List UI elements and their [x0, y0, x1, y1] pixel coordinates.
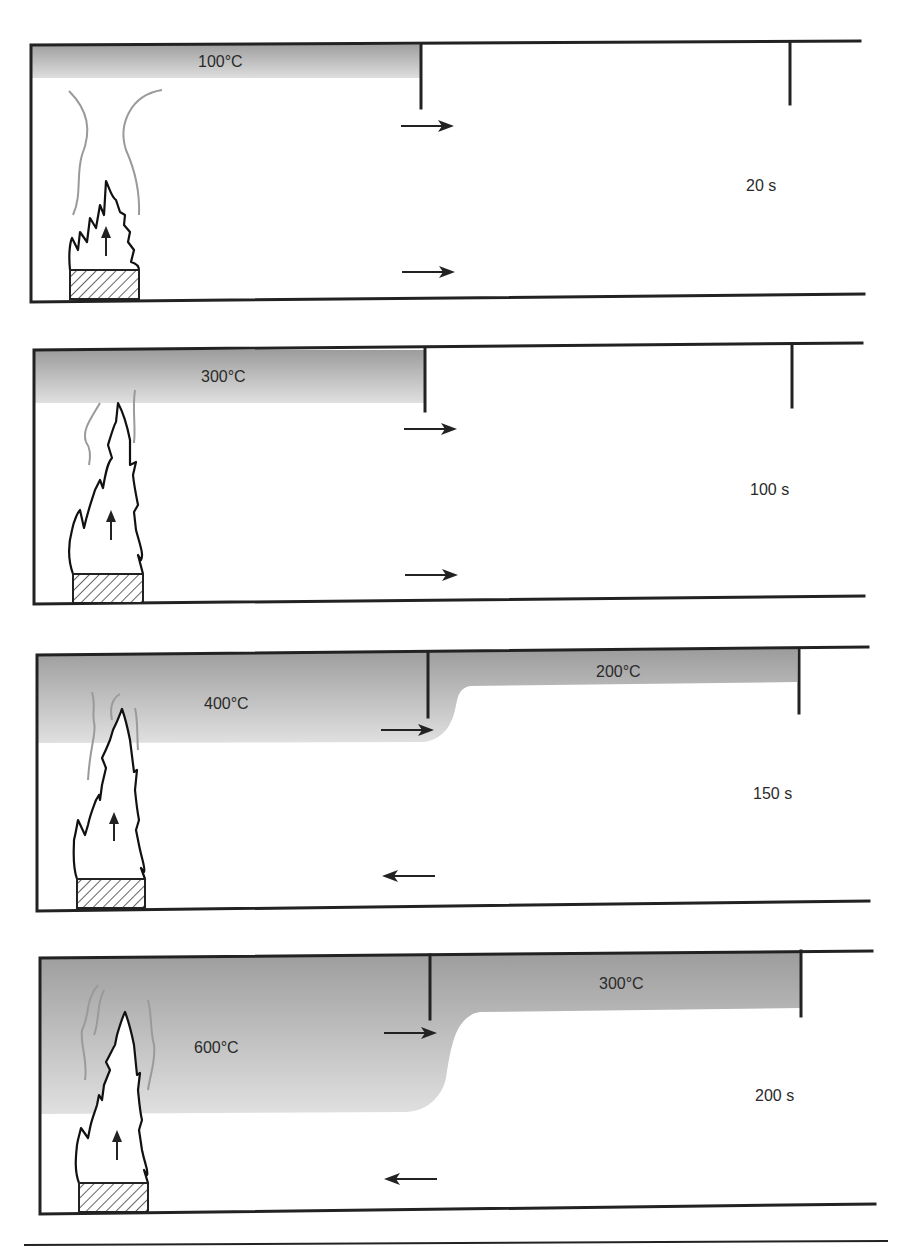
panel-200s: 600°C 300°C 200 s	[40, 951, 875, 1214]
smoke-layer-room	[37, 649, 797, 743]
corridor-layer-temp: 200°C	[596, 663, 641, 680]
panel-150s: 400°C 200°C 150 s	[37, 647, 869, 911]
room-wall-outline	[31, 41, 864, 302]
plume-line-left	[69, 91, 87, 215]
hatched-fuel-bed-icon	[79, 1183, 148, 1212]
hatched-fuel-bed-icon	[73, 574, 143, 603]
panel-100s: 300°C 100 s	[34, 343, 864, 604]
flame-icon	[69, 403, 143, 574]
plume-line-left	[85, 403, 100, 465]
flame-icon	[69, 181, 139, 270]
bottom-rule-divider	[24, 1241, 888, 1245]
corridor-layer-temp: 300°C	[599, 975, 644, 992]
time-label: 20 s	[746, 177, 776, 194]
arrow-icon-lower-left	[384, 1173, 437, 1185]
arrow-icon-lower-right	[402, 266, 455, 278]
plume-line-right	[124, 90, 162, 215]
time-label: 100 s	[750, 481, 789, 498]
hatched-fuel-bed-icon	[70, 270, 139, 299]
room-layer-temp: 400°C	[204, 695, 249, 712]
room-layer-temp: 600°C	[194, 1039, 239, 1056]
smoke-spread-diagram: 100°C 20 s 300°C 100 s	[0, 0, 908, 1252]
room-layer-temp: 100°C	[198, 53, 243, 70]
arrow-icon-upper-right	[401, 120, 454, 132]
arrow-icon-lower-left	[382, 870, 435, 882]
arrow-icon-upper-right	[404, 423, 457, 435]
panel-20s: 100°C 20 s	[31, 41, 864, 302]
time-label: 200 s	[755, 1087, 794, 1104]
hatched-fuel-bed-icon	[77, 879, 145, 908]
plume-line-right	[134, 390, 135, 443]
arrow-icon-lower-right	[405, 569, 458, 581]
time-label: 150 s	[753, 785, 792, 802]
room-layer-temp: 300°C	[201, 368, 246, 385]
